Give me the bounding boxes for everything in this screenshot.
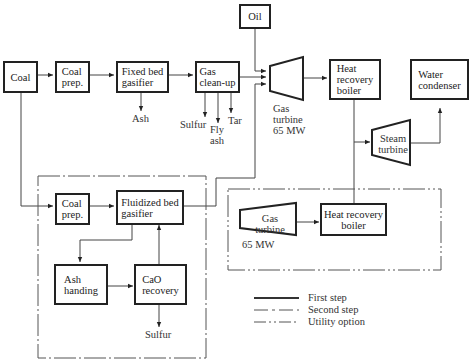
coal-prep-label: Coal prep.	[62, 66, 83, 88]
tar-label: Tar	[228, 115, 242, 126]
fly-ash-label: Fly ash	[210, 124, 224, 146]
diagram-lines	[0, 0, 470, 364]
water-condenser-label: Water condenser	[418, 69, 461, 91]
fluidized-bed-gasifier-label: Fluidized bed gasifier	[121, 197, 178, 219]
coal-label: Coal	[11, 72, 31, 83]
gas-cleanup-box: Gas clean-up	[195, 61, 240, 93]
fixed-bed-gasifier-box: Fixed bed gasifier	[116, 61, 169, 93]
heat-recovery-boiler-label: Heat recovery boiler	[337, 63, 374, 96]
gas-turbine-label: Gas turbine 65 MW	[273, 103, 305, 136]
oil-label: Oil	[248, 11, 261, 22]
sulfur-label: Sulfur	[180, 119, 206, 130]
water-condenser-box: Water condenser	[410, 59, 469, 100]
utility-heat-recovery-boiler-box: Heat recovery boiler	[320, 203, 387, 236]
utility-gas-turbine-power: 65 MW	[242, 239, 274, 250]
sulfur-2-label: Sulfur	[145, 329, 171, 340]
steam-turbine-label: Steam turbine	[376, 133, 410, 155]
fixed-bed-gasifier-label: Fixed bed gasifier	[122, 66, 164, 88]
ash-handing-label: Ash handing	[64, 274, 98, 296]
coal-box: Coal	[3, 61, 38, 93]
heat-recovery-boiler-box: Heat recovery boiler	[329, 59, 381, 100]
utility-gas-turbine-label: Gas turbine	[250, 213, 290, 235]
utility-heat-recovery-boiler-label: Heat recovery boiler	[324, 209, 383, 231]
cao-recovery-label: CaO recovery	[142, 274, 179, 296]
oil-box: Oil	[239, 4, 271, 29]
cao-recovery-box: CaO recovery	[134, 264, 187, 305]
legend-first-step: First step	[308, 292, 347, 303]
legend-second-step: Second step	[308, 304, 358, 315]
ash-label: Ash	[132, 113, 149, 124]
coal-prep-2-box: Coal prep.	[55, 193, 90, 225]
coal-prep-2-label: Coal prep.	[62, 198, 83, 220]
gas-turbine-shape	[270, 57, 303, 100]
fluidized-bed-gasifier-box: Fluidized bed gasifier	[116, 190, 184, 225]
ash-handing-box: Ash handing	[54, 264, 108, 305]
legend-utility-option: Utility option	[308, 316, 365, 327]
gas-cleanup-label: Gas clean-up	[199, 66, 235, 88]
coal-prep-box: Coal prep.	[55, 61, 90, 93]
